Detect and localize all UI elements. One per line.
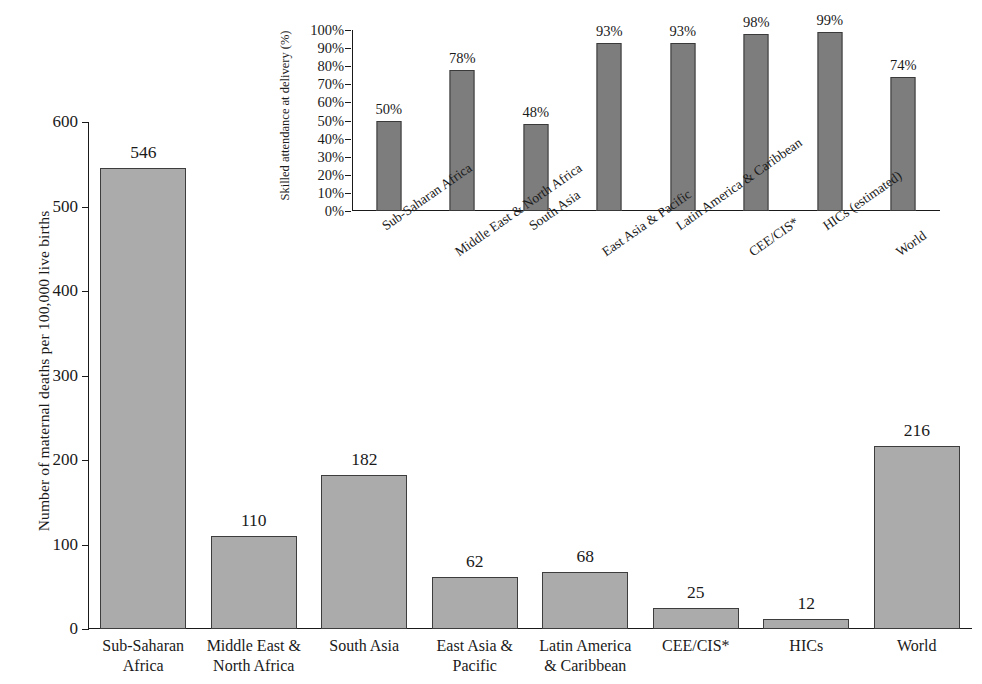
inset-chart-bar	[670, 43, 695, 211]
main-chart-bar	[763, 619, 849, 629]
inset-chart-bar-value-label: 78%	[449, 50, 476, 67]
main-chart-bar-value-label: 68	[577, 546, 595, 567]
inset-chart-y-tick-mark	[345, 84, 351, 85]
inset-chart-bar-value-label: 93%	[669, 23, 696, 40]
main-chart-bar-value-label: 12	[798, 593, 816, 614]
inset-chart-y-tick-label: 100%	[274, 22, 344, 39]
main-chart-bar	[321, 475, 407, 629]
inset-chart-y-tick-mark	[345, 211, 351, 212]
inset-chart-y-tick-mark	[345, 157, 351, 158]
inset-chart-bar-value-label: 50%	[375, 101, 402, 118]
main-chart-y-tick-label: 100	[26, 535, 78, 555]
main-chart-x-tick-label: South Asia	[309, 636, 420, 656]
inset-chart-bar-value-label: 93%	[596, 23, 623, 40]
main-chart-y-tick-mark	[82, 207, 89, 208]
main-chart-y-tick-label: 300	[26, 366, 78, 386]
main-chart-x-tick-label: Latin America& Caribbean	[530, 636, 641, 676]
inset-chart-bar	[376, 121, 401, 212]
main-chart-bar-value-label: 182	[351, 449, 377, 470]
main-chart-bar	[874, 446, 960, 629]
main-chart-x-tick-label-line: CEE/CIS*	[641, 636, 752, 656]
main-chart-x-tick-label-line: & Caribbean	[530, 656, 641, 676]
main-chart-y-tick-mark	[82, 460, 89, 461]
main-chart-bar-value-label: 216	[904, 420, 930, 441]
main-chart-x-tick-label-line: Sub-Saharan	[88, 636, 199, 656]
inset-chart-bar-group: 93%	[573, 30, 647, 211]
inset-chart-y-tick-label: 40%	[274, 130, 344, 147]
main-chart-x-tick-label-line: Africa	[88, 656, 199, 676]
inset-chart-y-tick-mark	[345, 193, 351, 194]
main-chart-x-tick-label: Sub-SaharanAfrica	[88, 636, 199, 676]
inset-chart-y-tick-mark	[345, 121, 351, 122]
inset-chart-bar-value-label: 99%	[816, 12, 843, 29]
inset-chart-bar	[891, 77, 916, 211]
main-chart-bar	[100, 168, 186, 629]
inset-chart-bar-value-label: 48%	[522, 104, 549, 121]
main-chart-y-tick-label: 0	[26, 619, 78, 639]
main-chart-x-tick-label-line: Latin America	[530, 636, 641, 656]
main-chart-y-tick-mark	[82, 629, 89, 630]
main-chart-bar-value-label: 110	[241, 510, 267, 531]
main-chart-x-tick-label: East Asia &Pacific	[420, 636, 531, 676]
inset-chart-y-tick-label: 70%	[274, 76, 344, 93]
inset-chart-bar-value-label: 98%	[743, 14, 770, 31]
inset-chart-bar	[817, 32, 842, 211]
main-chart-bar-value-label: 62	[466, 551, 484, 572]
inset-chart-y-tick-mark	[345, 30, 351, 31]
inset-chart-bar-group: 93%	[646, 30, 720, 211]
main-chart-bar-value-label: 546	[130, 142, 156, 163]
inset-chart-bar-value-label: 74%	[890, 57, 917, 74]
main-chart-x-tick-label-line: Pacific	[420, 656, 531, 676]
inset-chart-bar	[450, 70, 475, 211]
main-chart-x-tick-label-line: East Asia &	[420, 636, 531, 656]
inset-chart-bar-group: 50%	[352, 30, 426, 211]
inset-chart-x-tick-label: World	[893, 228, 930, 260]
main-chart-x-tick-label-line: North Africa	[199, 656, 310, 676]
main-chart-bar	[211, 536, 297, 629]
main-chart-bar	[542, 572, 628, 629]
skilled-attendance-inset-bar-chart: Skilled attendance at delivery (%) 0%10%…	[262, 0, 982, 330]
inset-chart-x-tick-label: CEE/CIS*	[746, 214, 802, 260]
main-chart-x-tick-label-line: Middle East &	[199, 636, 310, 656]
main-chart-y-tick-label: 400	[26, 281, 78, 301]
main-chart-x-tick-label: CEE/CIS*	[641, 636, 752, 656]
inset-chart-y-tick-mark	[345, 139, 351, 140]
main-chart-x-tick-label: HICs	[751, 636, 862, 656]
inset-chart-y-tick-mark	[345, 175, 351, 176]
main-chart-y-tick-mark	[82, 122, 89, 123]
main-chart-y-tick-mark	[82, 291, 89, 292]
main-chart-y-tick-label: 600	[26, 112, 78, 132]
inset-chart-y-tick-label: 20%	[274, 166, 344, 183]
main-chart-x-tick-label-line: South Asia	[309, 636, 420, 656]
inset-chart-y-tick-mark	[345, 66, 351, 67]
main-chart-x-tick-label-line: World	[862, 636, 973, 656]
main-chart-bar-value-label: 25	[687, 582, 705, 603]
main-chart-y-tick-mark	[82, 376, 89, 377]
main-chart-x-tick-label: Middle East &North Africa	[199, 636, 310, 676]
inset-chart-y-axis-ticks: 0%10%20%30%40%50%60%70%80%90%100%	[262, 0, 352, 230]
inset-chart-y-tick-label: 10%	[274, 184, 344, 201]
main-chart-x-tick-label: World	[862, 636, 973, 656]
main-chart-bar	[653, 608, 739, 629]
main-chart-bar-group: 546	[88, 122, 199, 629]
inset-chart-y-tick-label: 0%	[274, 203, 344, 220]
inset-chart-y-tick-mark	[345, 48, 351, 49]
inset-chart-y-tick-label: 50%	[274, 112, 344, 129]
inset-chart-y-tick-label: 90%	[274, 40, 344, 57]
inset-chart-y-tick-label: 60%	[274, 94, 344, 111]
main-chart-bar	[432, 577, 518, 629]
inset-chart-bar	[597, 43, 622, 211]
inset-chart-y-tick-label: 30%	[274, 148, 344, 165]
inset-chart-bar-group: 99%	[793, 30, 867, 211]
main-chart-y-tick-label: 200	[26, 450, 78, 470]
inset-chart-y-tick-label: 80%	[274, 58, 344, 75]
main-chart-y-tick-label: 500	[26, 197, 78, 217]
main-chart-y-tick-mark	[82, 545, 89, 546]
inset-chart-y-tick-mark	[345, 102, 351, 103]
main-chart-x-tick-label-line: HICs	[751, 636, 862, 656]
main-chart-y-axis-ticks: 0100200300400500600	[18, 0, 78, 684]
